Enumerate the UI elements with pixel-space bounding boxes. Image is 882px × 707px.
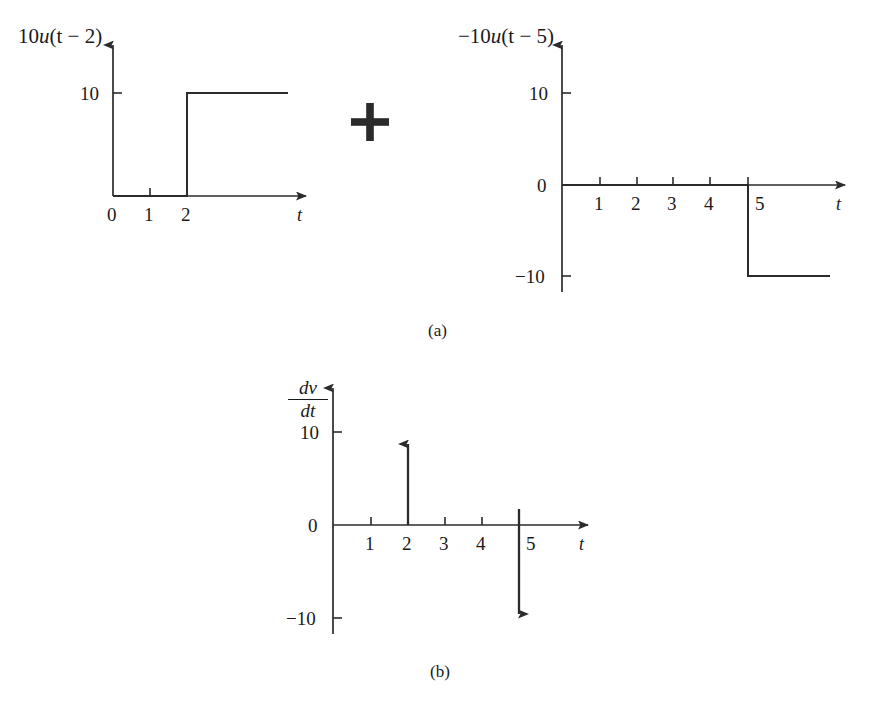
figure-graphics: [0, 0, 882, 707]
plot-1-xtick-2: 2: [181, 205, 191, 224]
plot-1-xtick-1: 1: [144, 205, 154, 224]
plot-2-xtick-3: 3: [667, 194, 677, 213]
plot-3-ytick-10: 10: [300, 423, 319, 442]
dt-denominator: dt: [288, 400, 328, 421]
plot-1-xtick-0: 0: [107, 205, 117, 224]
plot-3-t-axis-label: t: [579, 535, 584, 553]
plot-3-dv-dt-label: dv dt: [288, 378, 328, 421]
plot-2-ytick-minus-10: −10: [515, 267, 545, 286]
plot-2-t-axis-label: t: [836, 195, 841, 213]
panel-b-label: (b): [430, 663, 450, 680]
plot-3-ytick-minus-10: −10: [286, 609, 316, 628]
plot-2-xtick-4: 4: [704, 194, 714, 213]
plot-2-xtick-1: 1: [594, 194, 604, 213]
panel-a-label: (a): [428, 322, 447, 339]
plot-2-xtick-5: 5: [755, 194, 765, 213]
plot-3-xtick-3: 3: [439, 534, 449, 553]
plot-1-t-axis-label: t: [297, 206, 302, 224]
plus-operator-icon: [349, 101, 391, 143]
plot-1-ytick-10: 10: [80, 84, 99, 103]
plot-1-10u-t-minus-2: [113, 45, 306, 196]
plot-2-xtick-2: 2: [631, 194, 641, 213]
plot-2-function-label: −10u(t − 5): [458, 26, 554, 47]
plot-3-xtick-5: 5: [526, 534, 536, 553]
plot-2-ytick-10: 10: [529, 84, 548, 103]
plot-3-xtick-1: 1: [365, 534, 375, 553]
figure-root: 10u(t − 2) 10 0 1 2 t −10u(t − 5) 10 0 −…: [0, 0, 882, 707]
plot-3-xtick-4: 4: [476, 534, 486, 553]
plot-2-ytick-0: 0: [537, 176, 547, 195]
plot-1-function-label: 10u(t − 2): [18, 26, 102, 47]
plot-2-minus-10u-t-minus-5: [562, 45, 845, 292]
plot-3-dv-dt: [333, 388, 588, 634]
plot-3-xtick-2: 2: [402, 534, 412, 553]
dv-numerator: dv: [288, 378, 328, 400]
plot-3-ytick-0: 0: [308, 516, 318, 535]
plus-icon: [349, 101, 391, 143]
